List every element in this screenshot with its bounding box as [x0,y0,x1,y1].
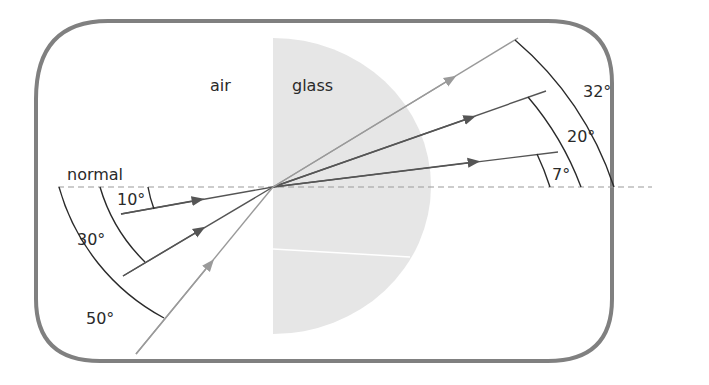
arc-refracted-7 [537,154,550,187]
incident-ray-30-arrow-seg [123,230,200,276]
label-incident-30: 30° [77,230,105,249]
label-incident-10: 10° [117,190,145,209]
label-refracted-20: 20° [567,127,595,146]
refraction-diagram: air glass normal 10° 30° 50° 7° 20° 32° [0,0,709,385]
arc-incident-50 [59,187,164,318]
label-refracted-7: 7° [552,165,570,184]
incident-ray-50-arrow-seg [136,264,210,354]
label-incident-50: 50° [86,309,114,328]
label-air: air [210,76,231,95]
label-normal: normal [67,165,123,184]
label-glass: glass [292,76,333,95]
arc-incident-10 [148,187,154,209]
label-refracted-32: 32° [583,82,611,101]
